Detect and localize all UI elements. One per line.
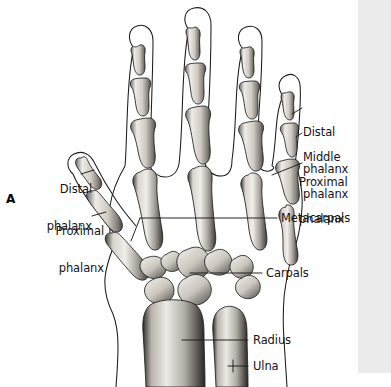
little-middle-phalanx (280, 123, 299, 157)
carpal-pisiform (230, 255, 253, 278)
label-metacarpals: Metacarpals (281, 212, 350, 224)
index-distal-phalanx (131, 45, 145, 75)
label-line-1: Proximal (299, 176, 348, 188)
label-line-1: Distal (0, 183, 92, 195)
label-proximal-phalanx-left: Proximal phalanx (0, 200, 104, 299)
label-ulna: Ulna (253, 360, 279, 372)
ring-finger-bones (239, 47, 264, 171)
middle-finger-bones (185, 27, 210, 164)
radius-bone (143, 300, 205, 387)
ulna-bone (213, 306, 248, 387)
metacarpal-3 (188, 166, 216, 251)
middle-proximal-phalanx (186, 106, 211, 164)
middle-middle-phalanx (185, 63, 206, 104)
carpal-hamate (205, 249, 233, 275)
label-line-1: Proximal (0, 225, 104, 237)
ring-middle-phalanx (239, 81, 260, 119)
forearm-bones (143, 300, 248, 387)
label-proximal-phalanx-right: Proximal phalanx (299, 151, 348, 250)
carpal-triquetrum (235, 275, 260, 298)
label-radius: Radius (253, 334, 291, 346)
label-line-2: phalanx (0, 262, 104, 274)
label-carpals: Carpals (266, 267, 309, 279)
index-proximal-phalanx (131, 118, 156, 168)
ring-proximal-phalanx (239, 121, 264, 171)
index-middle-phalanx (130, 78, 151, 116)
ring-distal-phalanx (240, 47, 254, 78)
metacarpal-4 (241, 173, 267, 250)
little-distal-phalanx (281, 92, 294, 120)
metacarpal-2 (133, 169, 163, 250)
carpals-group (140, 247, 260, 305)
middle-distal-phalanx (186, 27, 200, 60)
figure-page: A Distal phalanx Middle phalanx Proximal… (0, 0, 391, 387)
